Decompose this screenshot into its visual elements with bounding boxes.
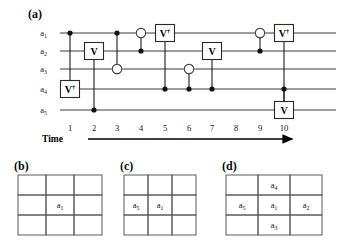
table-c-cell-r0c2 [172,175,196,195]
table-b-cell-r2c0 [18,215,46,235]
table-d-cell-r0c2 [290,175,322,195]
table-d-label-a2: a2 [303,200,310,211]
state-tables: a1 a5a1 a4a5a1a2a3 [0,0,340,249]
table-b-cell-r2c1 [46,215,74,235]
table-c-cell-r2c0 [124,215,148,235]
table-c-cell-r0c0 [124,175,148,195]
table-b-label-a1: a1 [57,200,64,211]
table-b-cell-r1c0 [18,195,46,215]
table-b-cell-r0c2 [74,175,102,195]
table-d-cell-r2c2 [290,215,322,235]
table-d-label-a4: a4 [271,180,278,191]
table-d-label-a3: a3 [271,220,278,231]
table-b-cell-r2c2 [74,215,102,235]
table-d-cell-r0c0 [226,175,258,195]
table-c-cell-r2c2 [172,215,196,235]
table-c: a5a1 [124,175,196,235]
table-c-label-a5: a5 [133,200,140,211]
table-d: a4a5a1a2a3 [226,175,322,235]
table-c-label-a1: a1 [157,200,164,211]
table-d-label-a1: a1 [271,200,278,211]
table-b-cell-r1c2 [74,195,102,215]
table-c-cell-r0c1 [148,175,172,195]
table-d-label-a5: a5 [239,200,246,211]
table-b-cell-r0c0 [18,175,46,195]
table-b-cell-r0c1 [46,175,74,195]
table-c-cell-r1c2 [172,195,196,215]
table-d-cell-r2c0 [226,215,258,235]
table-b: a1 [18,175,102,235]
table-c-cell-r2c1 [148,215,172,235]
